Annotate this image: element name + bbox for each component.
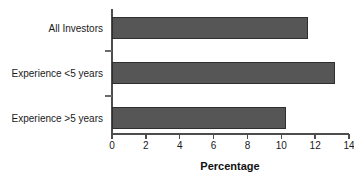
x-axis-line (111, 133, 349, 135)
bar-chart: All Investors Experience <5 years Experi… (0, 0, 354, 178)
x-axis-tick (213, 134, 215, 139)
x-axis-tick (348, 134, 350, 139)
x-axis-title: Percentage (111, 160, 349, 172)
x-axis-tick-label: 2 (143, 140, 149, 151)
x-axis-tick (247, 134, 249, 139)
x-axis-tick (281, 134, 283, 139)
bar-all-investors (112, 17, 308, 39)
x-axis-tick (314, 134, 316, 139)
x-axis-tick (145, 134, 147, 139)
category-label-all-investors: All Investors (49, 23, 103, 34)
y-axis-tick (105, 50, 112, 52)
y-axis-tick (105, 95, 112, 97)
bar-experience-under-5 (112, 62, 335, 84)
x-axis-tick-label: 10 (276, 140, 287, 151)
x-axis-tick (111, 134, 113, 139)
x-axis-tick-label: 14 (343, 140, 354, 151)
category-label-experience-under-5: Experience <5 years (12, 68, 103, 79)
x-axis-tick-label: 12 (310, 140, 321, 151)
category-label-experience-over-5: Experience >5 years (12, 113, 103, 124)
x-axis-tick-label: 6 (211, 140, 217, 151)
x-axis-tick-label: 0 (109, 140, 115, 151)
bar-experience-over-5 (112, 107, 286, 129)
x-axis-tick (179, 134, 181, 139)
x-axis-tick-label: 8 (245, 140, 251, 151)
x-axis-tick-label: 4 (177, 140, 183, 151)
